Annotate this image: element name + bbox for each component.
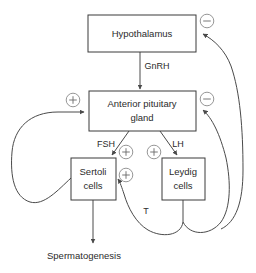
node-sertoli-cells-label-line2: cells xyxy=(83,180,102,191)
node-hypothalamus-label: Hypothalamus xyxy=(112,28,173,39)
outcome-spermatogenesis-label: Spermatogenesis xyxy=(47,250,121,261)
node-leydig-cells-label-line1: Leydig xyxy=(169,166,197,177)
endocrine-feedback-diagram: Hypothalamus Anterior pituitary gland Se… xyxy=(0,0,256,273)
edge-label-lh: LH xyxy=(172,139,184,149)
node-leydig-cells xyxy=(162,158,205,200)
edge-label-gnrh: GnRH xyxy=(144,61,169,71)
node-anterior-pituitary-label-line1: Anterior pituitary xyxy=(107,98,176,109)
sign-badge-minus-pituitary xyxy=(200,92,214,106)
edge-testosterone-to-hypothalamus xyxy=(203,34,243,229)
node-leydig-cells-label-line2: cells xyxy=(173,180,192,191)
sign-badge-minus-hypothalamus xyxy=(200,14,214,28)
sign-badge-plus-testosterone-sertoli xyxy=(119,168,133,182)
sign-badge-plus-fsh-sertoli xyxy=(119,145,133,159)
node-anterior-pituitary-label-line2: gland xyxy=(130,112,153,123)
node-sertoli-cells-label-line1: Sertoli xyxy=(80,166,107,177)
edge-label-fsh: FSH xyxy=(97,139,115,149)
sign-badge-plus-lh-leydig xyxy=(147,145,161,159)
edge-label-testosterone: T xyxy=(143,206,149,216)
sign-badge-plus-pituitary xyxy=(66,93,80,107)
node-anterior-pituitary xyxy=(89,91,196,131)
diagram-canvas: Hypothalamus Anterior pituitary gland Se… xyxy=(0,0,256,273)
node-sertoli-cells xyxy=(71,158,116,200)
